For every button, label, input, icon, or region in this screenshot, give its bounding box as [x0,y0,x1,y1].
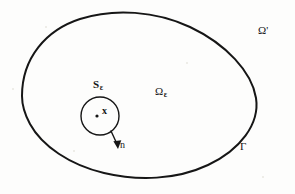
omega-glyph: Ω [155,85,163,97]
label-point-x: x [102,106,107,116]
figure-canvas: Ω' Ωε Sε x n Γ [0,0,295,194]
epsilon-subscript: ε [100,83,103,92]
diagram-svg [0,0,295,194]
small-sphere-circle [81,97,119,135]
prime-glyph: ' [266,24,268,36]
label-interior-domain: Ωε [155,86,167,97]
label-exterior-domain: Ω' [258,25,268,36]
omega-glyph: Ω [258,24,266,36]
center-point-dot [95,114,98,117]
label-normal-n: n [120,140,125,150]
epsilon-subscript: ε [164,90,167,99]
label-boundary-gamma: Γ [240,141,246,152]
boundary-gamma-curve [22,12,257,178]
label-small-sphere: Sε [93,79,103,90]
s-glyph: S [93,78,99,90]
